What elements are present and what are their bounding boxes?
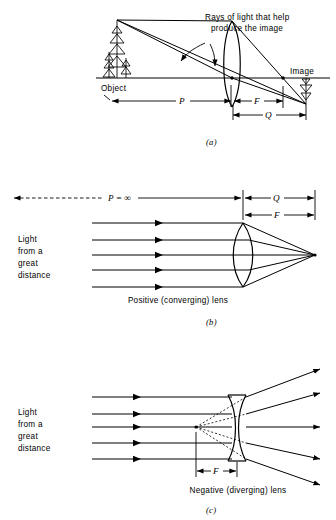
object-label: Object [101,84,127,93]
source-label-line4: distance [18,271,51,280]
dimension-p-label: P [178,96,185,106]
annotation-rays-line1: Rays of light that help [205,13,290,22]
refracted-diverging-rays [246,369,320,485]
incoming-parallel-rays [92,220,251,290]
source-label-line4: distance [18,444,51,453]
source-label-line1: Light [18,235,37,244]
image-label: Image [290,67,314,76]
dimension-q: Q [245,192,314,204]
lens-type-label-b: Positive (converging) lens [128,296,228,305]
diverging-lens-c [228,395,246,461]
axis-node-image [281,76,284,79]
panel-c-negative-lens: F Light from a great distance Negative (… [0,355,336,520]
panel-a-converging-lens-imaging: Rays of light that help produce the imag… [0,0,336,170]
lens-center-node [230,76,233,79]
dimension-f: F [234,86,283,108]
converging-lens-a [224,21,241,107]
dimension-f-label: F [253,96,260,106]
source-label-line1: Light [18,408,37,417]
source-label-line2: from a [18,420,43,429]
dimension-q-label: Q [273,193,280,203]
focal-point-b [313,253,316,256]
ray-parallel-refracted [232,21,306,104]
object-leader [104,95,110,100]
dimension-q-label: Q [265,110,272,120]
lens-type-label-c: Negative (diverging) lens [190,486,287,495]
dimension-f-label: F [273,210,280,220]
object-trees [103,20,131,78]
optics-figure: Rays of light that help produce the imag… [0,0,336,520]
source-label-line3: great [18,259,38,268]
panel-b-caption: (b) [206,317,217,327]
dimension-f-label: F [212,466,219,476]
dimension-p-infinity: P = ∞ [14,193,241,203]
image-inverted-tree [300,78,312,104]
incoming-parallel-rays [92,394,232,462]
panel-b-positive-lens: P = ∞ Q F [0,170,336,355]
annotation-rays-line2: produce the image [211,24,283,33]
dimension-f: F [245,209,314,221]
panel-a-caption: (a) [206,137,217,147]
source-label-line2: from a [18,247,43,256]
dimension-p-infinity-label: P = ∞ [107,193,131,203]
refracted-converging-rays [243,223,315,287]
panel-c-caption: (c) [206,505,216,515]
dimension-q: Q [233,104,306,121]
source-label-line3: great [18,432,38,441]
dimension-p: P [112,85,231,107]
